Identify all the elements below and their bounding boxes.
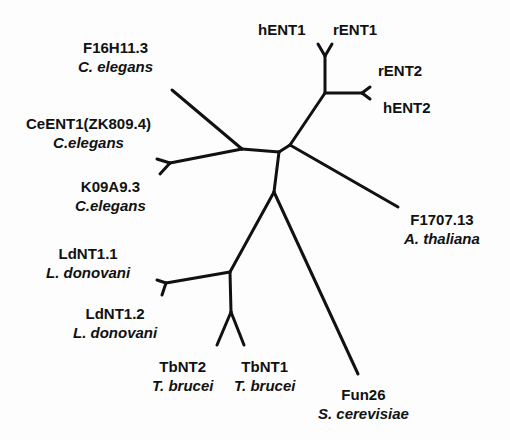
branch-Fun26 — [274, 192, 358, 374]
branch-celegans-pair-stem — [170, 149, 242, 163]
branch-F1707.13 — [290, 145, 398, 207]
species-name: L. donovani — [46, 263, 130, 282]
leaf-label-K09A9.3: K09A9.3 C.elegans — [75, 177, 146, 215]
branch-K09A9.3 — [160, 163, 170, 174]
species-name: C.elegans — [75, 196, 146, 215]
species-name: S. cerevisiae — [318, 404, 409, 423]
species-name: T. brucei — [234, 376, 295, 395]
branch-ldnt-stem — [166, 272, 230, 283]
species-name: A. thaliana — [404, 229, 480, 248]
species-name: T. brucei — [152, 376, 213, 395]
branch-center-to-upper-node — [279, 145, 290, 152]
gene-name: rENT2 — [378, 61, 422, 80]
species-name: L. donovani — [73, 323, 157, 342]
gene-name: K09A9.3 — [75, 177, 146, 196]
leaf-label-LdNT1.1: LdNT1.1 L. donovani — [46, 244, 130, 282]
leaf-label-CeENT1: CeENT1(ZK809.4) C.elegans — [26, 114, 151, 152]
branch-TbNT1 — [231, 312, 244, 345]
species-name: C.elegans — [26, 133, 151, 152]
phylogenetic-tree-figure: hENT1 rENT1 rENT2 hENT2 F16H11.3 C. eleg… — [0, 0, 510, 440]
gene-name: TbNT2 — [152, 357, 213, 376]
leaf-label-rENT2: rENT2 — [378, 61, 422, 80]
gene-name: CeENT1(ZK809.4) — [26, 114, 151, 133]
branch-hENT1 — [318, 44, 325, 56]
branch-F16H11.3 — [172, 90, 242, 149]
branch-rENT1 — [325, 44, 332, 56]
gene-name: hENT2 — [383, 98, 431, 117]
gene-name: F16H11.3 — [78, 38, 153, 57]
branch-center-to-celegans-node — [242, 149, 279, 152]
leaf-label-TbNT1: TbNT1 T. brucei — [234, 357, 295, 395]
leaf-label-F16H11.3: F16H11.3 C. elegans — [78, 38, 153, 76]
leaf-label-F1707.13: F1707.13 A. thaliana — [404, 210, 480, 248]
gene-name: TbNT1 — [234, 357, 295, 376]
species-name: C. elegans — [78, 57, 153, 76]
gene-name: LdNT1.2 — [73, 304, 157, 323]
gene-name: Fun26 — [318, 385, 409, 404]
leaf-label-hENT2: hENT2 — [383, 98, 431, 117]
branch-hENT2 — [362, 93, 370, 99]
leaf-label-rENT1: rENT1 — [333, 20, 377, 39]
branch-TbNT2 — [217, 312, 231, 345]
leaf-label-Fun26: Fun26 S. cerevisiae — [318, 385, 409, 423]
gene-name: hENT1 — [258, 20, 306, 39]
leaf-label-TbNT2: TbNT2 T. brucei — [152, 357, 213, 395]
leaf-label-LdNT1.2: LdNT1.2 L. donovani — [73, 304, 157, 342]
branch-to-ent-node — [290, 93, 325, 145]
gene-name: LdNT1.1 — [46, 244, 130, 263]
leaf-label-hENT1: hENT1 — [258, 20, 306, 39]
branch-LdNT1.2 — [162, 283, 166, 295]
branch-CeENT1 — [157, 159, 170, 163]
branch-center-to-lower-node — [274, 152, 279, 192]
branch-to-protozoan-node — [230, 192, 274, 272]
branch-tbnt-stem — [230, 272, 231, 312]
gene-name: rENT1 — [333, 20, 377, 39]
gene-name: F1707.13 — [404, 210, 480, 229]
